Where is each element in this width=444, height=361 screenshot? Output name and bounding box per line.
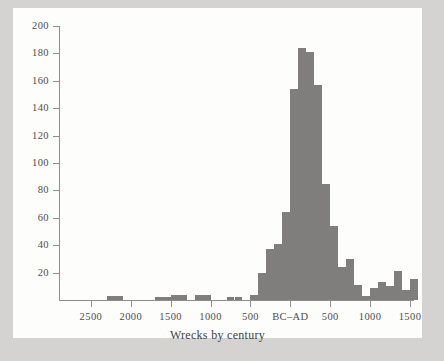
histogram-bar: [322, 184, 330, 300]
y-tick-mark: [53, 81, 59, 82]
x-tick-label: 1500: [399, 311, 422, 322]
y-tick-mark: [53, 190, 59, 191]
x-tick-label: 500: [322, 311, 339, 322]
y-tick-label: 140: [32, 103, 49, 113]
histogram-bar: [378, 282, 386, 300]
histogram-bar: [394, 271, 402, 300]
histogram-bar: [250, 295, 258, 300]
y-tick-label: 40: [38, 240, 49, 250]
y-tick-mark: [53, 53, 59, 54]
histogram-bar: [354, 285, 362, 300]
y-tick-mark: [53, 218, 59, 219]
histogram-bar: [179, 295, 187, 300]
histogram-bar: [227, 297, 235, 300]
x-tick-label: 2000: [119, 311, 142, 322]
x-tick-mark: [290, 301, 291, 307]
x-tick-mark: [91, 301, 92, 307]
plot-area: 20406080100120140160180200 2500200015001…: [13, 8, 422, 338]
x-axis-line: [59, 300, 414, 301]
histogram-bar: [258, 273, 266, 300]
histogram-bar: [370, 288, 378, 300]
x-tick-mark: [330, 301, 331, 307]
x-tick-label: 500: [242, 311, 259, 322]
y-tick-mark: [53, 26, 59, 27]
chart-figure: 20406080100120140160180200 2500200015001…: [13, 8, 422, 338]
histogram-bar: [282, 212, 290, 300]
x-tick-label: 1000: [199, 311, 222, 322]
histogram-bar: [274, 244, 282, 300]
y-tick-mark: [53, 136, 59, 137]
y-tick-label: 60: [38, 213, 49, 223]
histogram-bar: [195, 295, 203, 300]
x-tick-label: 1000: [359, 311, 382, 322]
x-tick-label: BC–AD: [272, 311, 308, 322]
histogram-bar: [402, 290, 410, 300]
histogram-bar: [362, 296, 370, 300]
histogram-bar: [266, 249, 274, 300]
y-tick-label: 160: [32, 76, 49, 86]
histogram-bar: [346, 259, 354, 300]
y-tick-label: 80: [38, 185, 49, 195]
histogram-bar: [203, 295, 211, 300]
x-tick-mark: [410, 301, 411, 307]
y-tick-label: 120: [32, 131, 49, 141]
histogram-bar: [306, 52, 314, 300]
y-tick-mark: [53, 163, 59, 164]
y-tick-label: 180: [32, 48, 49, 58]
x-tick-mark: [370, 301, 371, 307]
x-tick-mark: [211, 301, 212, 307]
y-tick-label: 20: [38, 268, 49, 278]
histogram-bar: [163, 297, 171, 300]
x-tick-mark: [250, 301, 251, 307]
x-tick-label: 1500: [159, 311, 182, 322]
y-axis-line: [59, 26, 60, 301]
histogram-bar: [115, 296, 123, 300]
histogram-bar: [338, 267, 346, 300]
histogram-bar: [314, 85, 322, 300]
histogram-bar: [235, 297, 243, 300]
histogram-bar: [410, 279, 418, 300]
y-tick-label: 200: [32, 21, 49, 31]
x-axis-title: Wrecks by century: [13, 328, 422, 343]
histogram-bar: [330, 226, 338, 300]
y-tick-mark: [53, 273, 59, 274]
y-tick-mark: [53, 245, 59, 246]
x-tick-mark: [171, 301, 172, 307]
x-tick-mark: [131, 301, 132, 307]
histogram-bar: [171, 295, 179, 300]
histogram-bar: [107, 296, 115, 300]
histogram-bar: [298, 48, 306, 300]
x-tick-label: 2500: [80, 311, 103, 322]
histogram-bar: [290, 89, 298, 300]
histogram-bar: [386, 286, 394, 300]
y-tick-label: 100: [32, 158, 49, 168]
histogram-bar: [155, 297, 163, 300]
y-tick-mark: [53, 108, 59, 109]
